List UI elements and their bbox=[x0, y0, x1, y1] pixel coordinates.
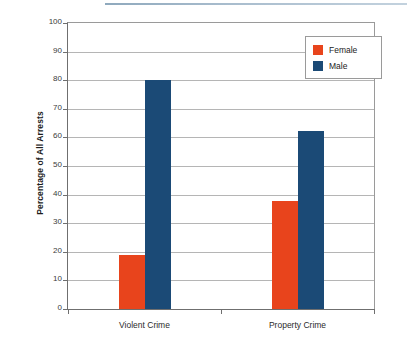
y-tick-label: 90 bbox=[38, 47, 62, 55]
gridline bbox=[68, 195, 374, 196]
legend-label-male: Male bbox=[329, 62, 347, 71]
gridline bbox=[68, 223, 374, 224]
gridline bbox=[68, 137, 374, 138]
bar-chart-figure: Percentage of All Arrests 10090807060504… bbox=[0, 0, 407, 344]
bar-female-violent-crime[interactable] bbox=[119, 255, 145, 309]
y-tick-mark bbox=[63, 23, 67, 24]
y-tick-mark bbox=[63, 280, 67, 281]
legend-swatch-female-icon bbox=[313, 45, 323, 55]
gridline bbox=[68, 280, 374, 281]
y-tick-label: 60 bbox=[38, 132, 62, 140]
bar-male-violent-crime[interactable] bbox=[145, 80, 171, 309]
y-axis-tick-labels: 1009080706050403020100 bbox=[36, 22, 62, 308]
y-tick-mark bbox=[63, 137, 67, 138]
legend-label-female: Female bbox=[329, 46, 357, 55]
gridline bbox=[68, 252, 374, 253]
y-tick-mark bbox=[63, 252, 67, 253]
bar-female-property-crime[interactable] bbox=[272, 201, 298, 309]
y-tick-label: 0 bbox=[38, 304, 62, 312]
x-tick-label: Violent Crime bbox=[119, 320, 170, 330]
legend-item-male[interactable]: Male bbox=[313, 58, 381, 74]
y-tick-label: 40 bbox=[38, 190, 62, 198]
y-tick-label: 10 bbox=[38, 275, 62, 283]
legend-item-female[interactable]: Female bbox=[313, 42, 381, 58]
y-axis-title-container: Percentage of All Arrests bbox=[22, 22, 36, 308]
gridline bbox=[68, 109, 374, 110]
y-tick-label: 80 bbox=[38, 75, 62, 83]
y-tick-label: 70 bbox=[38, 104, 62, 112]
legend-swatch-male-icon bbox=[313, 61, 323, 71]
y-tick-mark bbox=[63, 80, 67, 81]
bar-male-property-crime[interactable] bbox=[298, 131, 324, 309]
y-tick-label: 20 bbox=[38, 247, 62, 255]
y-tick-mark bbox=[63, 52, 67, 53]
y-tick-label: 100 bbox=[38, 18, 62, 26]
gridline bbox=[68, 166, 374, 167]
y-tick-label: 50 bbox=[38, 161, 62, 169]
x-axis: Violent CrimeProperty Crime bbox=[67, 309, 375, 339]
chart-legend: Female Male bbox=[305, 36, 382, 79]
y-tick-mark bbox=[63, 166, 67, 167]
y-tick-mark bbox=[63, 195, 67, 196]
x-tick-mark bbox=[221, 309, 222, 314]
gridline bbox=[68, 80, 374, 81]
y-tick-mark bbox=[63, 223, 67, 224]
x-tick-mark bbox=[68, 309, 69, 314]
y-tick-mark bbox=[63, 109, 67, 110]
x-tick-mark bbox=[374, 309, 375, 314]
y-tick-label: 30 bbox=[38, 218, 62, 226]
x-tick-label: Property Crime bbox=[269, 320, 326, 330]
